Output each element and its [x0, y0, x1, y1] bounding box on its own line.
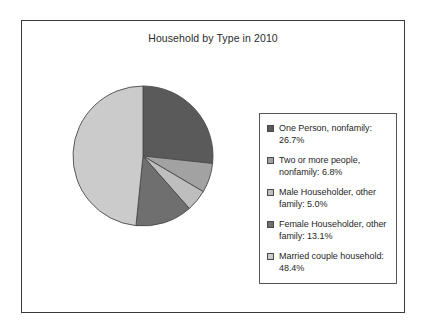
legend-rows: One Person, nonfamily: 26.7%Two or more …	[267, 123, 388, 274]
pie-slice	[143, 86, 213, 163]
chart-title: Household by Type in 2010	[22, 32, 404, 44]
legend-item[interactable]: Married couple household: 48.4%	[267, 251, 388, 274]
chart-legend: One Person, nonfamily: 26.7%Two or more …	[259, 113, 397, 284]
legend-item-label: Male Householder, other family: 5.0%	[279, 187, 388, 210]
pie-slice	[73, 86, 143, 226]
legend-swatch-icon	[267, 253, 274, 260]
chart-figure-frame: Household by Type in 2010 One Person, no…	[21, 20, 405, 313]
legend-swatch-icon	[267, 221, 274, 228]
pie-chart	[72, 85, 214, 227]
legend-item-label: Female Householder, other family: 13.1%	[279, 219, 388, 242]
legend-item-label: One Person, nonfamily: 26.7%	[279, 123, 388, 146]
legend-swatch-icon	[267, 125, 274, 132]
legend-item-label: Two or more people, nonfamily: 6.8%	[279, 155, 388, 178]
pie-slice-group	[73, 86, 213, 226]
legend-item-label: Married couple household: 48.4%	[279, 251, 388, 274]
legend-item[interactable]: One Person, nonfamily: 26.7%	[267, 123, 388, 146]
legend-item[interactable]: Female Householder, other family: 13.1%	[267, 219, 388, 242]
legend-item[interactable]: Male Householder, other family: 5.0%	[267, 187, 388, 210]
legend-swatch-icon	[267, 189, 274, 196]
legend-item[interactable]: Two or more people, nonfamily: 6.8%	[267, 155, 388, 178]
legend-swatch-icon	[267, 157, 274, 164]
pie-chart-svg	[72, 85, 214, 227]
